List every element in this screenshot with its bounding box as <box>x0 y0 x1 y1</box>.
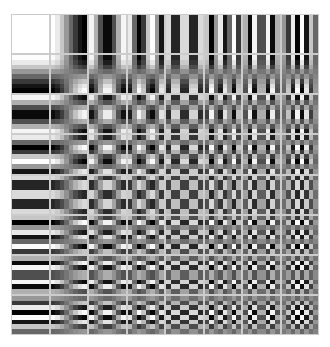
basis-cell-7-4 <box>166 296 203 334</box>
basis-cell-2-4 <box>166 95 203 133</box>
basis-cell-0-0 <box>12 15 49 53</box>
basis-cell-4-3 <box>128 176 165 214</box>
basis-cell-5-1 <box>51 216 88 254</box>
basis-cell-1-6 <box>243 55 280 93</box>
basis-cell-0-3 <box>128 15 165 53</box>
basis-cell-1-7 <box>282 55 319 93</box>
basis-cell-7-7 <box>282 296 319 334</box>
basis-cell-5-6 <box>243 216 280 254</box>
basis-cell-6-3 <box>128 256 165 294</box>
basis-cell-1-1 <box>51 55 88 93</box>
basis-cell-4-4 <box>166 176 203 214</box>
basis-cell-4-5 <box>205 176 242 214</box>
basis-cell-5-2 <box>89 216 126 254</box>
dct-basis-grid <box>12 15 318 334</box>
basis-cell-3-5 <box>205 135 242 173</box>
basis-cell-2-5 <box>205 95 242 133</box>
basis-cell-4-7 <box>282 176 319 214</box>
basis-cell-6-5 <box>205 256 242 294</box>
basis-cell-4-6 <box>243 176 280 214</box>
basis-cell-3-1 <box>51 135 88 173</box>
basis-cell-7-3 <box>128 296 165 334</box>
basis-cell-5-4 <box>166 216 203 254</box>
basis-cell-1-0 <box>12 55 49 93</box>
basis-cell-0-6 <box>243 15 280 53</box>
basis-cell-2-1 <box>51 95 88 133</box>
basis-cell-6-1 <box>51 256 88 294</box>
basis-cell-2-3 <box>128 95 165 133</box>
basis-cell-6-0 <box>12 256 49 294</box>
basis-cell-4-2 <box>89 176 126 214</box>
basis-cell-4-1 <box>51 176 88 214</box>
basis-cell-2-2 <box>89 95 126 133</box>
basis-cell-1-4 <box>166 55 203 93</box>
basis-cell-7-0 <box>12 296 49 334</box>
basis-cell-0-4 <box>166 15 203 53</box>
basis-cell-7-5 <box>205 296 242 334</box>
basis-cell-0-2 <box>89 15 126 53</box>
basis-cell-5-3 <box>128 216 165 254</box>
basis-cell-5-7 <box>282 216 319 254</box>
basis-cell-1-5 <box>205 55 242 93</box>
basis-cell-1-3 <box>128 55 165 93</box>
basis-cell-3-2 <box>89 135 126 173</box>
basis-cell-6-2 <box>89 256 126 294</box>
basis-cell-3-4 <box>166 135 203 173</box>
basis-cell-3-0 <box>12 135 49 173</box>
basis-cell-5-0 <box>12 216 49 254</box>
basis-cell-7-1 <box>51 296 88 334</box>
basis-cell-0-1 <box>51 15 88 53</box>
basis-cell-6-4 <box>166 256 203 294</box>
basis-cell-3-7 <box>282 135 319 173</box>
basis-cell-3-6 <box>243 135 280 173</box>
basis-cell-0-5 <box>205 15 242 53</box>
basis-cell-7-6 <box>243 296 280 334</box>
basis-cell-7-2 <box>89 296 126 334</box>
basis-cell-1-2 <box>89 55 126 93</box>
basis-cell-6-6 <box>243 256 280 294</box>
basis-cell-6-7 <box>282 256 319 294</box>
basis-cell-4-0 <box>12 176 49 214</box>
basis-cell-2-7 <box>282 95 319 133</box>
basis-cell-2-0 <box>12 95 49 133</box>
basis-cell-3-3 <box>128 135 165 173</box>
basis-cell-0-7 <box>282 15 319 53</box>
basis-cell-2-6 <box>243 95 280 133</box>
basis-cell-5-5 <box>205 216 242 254</box>
